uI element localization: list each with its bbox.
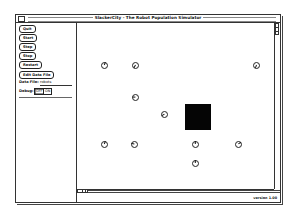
robot-heading-indicator [131, 143, 134, 144]
simulation-canvas[interactable] [77, 23, 274, 190]
robot [253, 62, 260, 69]
quit-button[interactable]: Quit [19, 25, 36, 33]
version-label: version 1.00 [253, 196, 277, 200]
robot-heading-indicator [195, 160, 196, 163]
step-button[interactable]: Step [19, 43, 36, 51]
robot [235, 141, 242, 148]
data-file-label: Data File: [19, 80, 39, 84]
robot-heading-indicator [255, 65, 257, 68]
vertical-scrollbar[interactable] [274, 23, 280, 189]
title-bar[interactable]: SlackerCity - The Robot Population Simul… [16, 15, 280, 23]
vertical-scroll-thumb[interactable] [275, 23, 279, 35]
start-button[interactable]: Start [19, 34, 37, 42]
robot-heading-indicator [132, 97, 135, 98]
robot [131, 141, 138, 148]
robot [132, 62, 139, 69]
robot-heading-indicator [162, 114, 165, 116]
control-panel: Quit Start Step Stop Restart Edit Data F… [16, 23, 77, 202]
debug-label: Debug: [19, 89, 34, 93]
robot-heading-indicator [238, 142, 241, 144]
robot [192, 141, 199, 148]
robot-heading-indicator [195, 141, 196, 144]
edit-data-file-button[interactable]: Edit Data File [19, 71, 54, 79]
horizontal-scroll-track[interactable] [88, 190, 280, 193]
horizontal-scroll-thumb[interactable] [77, 189, 88, 193]
robot [101, 62, 108, 69]
debug-on-toggle[interactable]: ON [43, 88, 52, 95]
window-title: SlackerCity - The Robot Population Simul… [93, 15, 204, 20]
stop-button[interactable]: Stop [19, 52, 36, 60]
simulator-window: SlackerCity - The Robot Population Simul… [15, 14, 281, 203]
robot [161, 111, 168, 118]
robot-heading-indicator [104, 141, 106, 144]
horizontal-scrollbar[interactable] [77, 189, 280, 193]
robot [192, 160, 199, 167]
obstacle-block [185, 104, 211, 130]
data-file-field[interactable]: robots [40, 80, 72, 86]
robot-heading-indicator [104, 62, 106, 65]
restart-button[interactable]: Restart [19, 61, 42, 69]
robot-heading-indicator [134, 65, 136, 68]
robot [132, 94, 139, 101]
panel-divider [19, 97, 72, 98]
robot [101, 141, 108, 148]
